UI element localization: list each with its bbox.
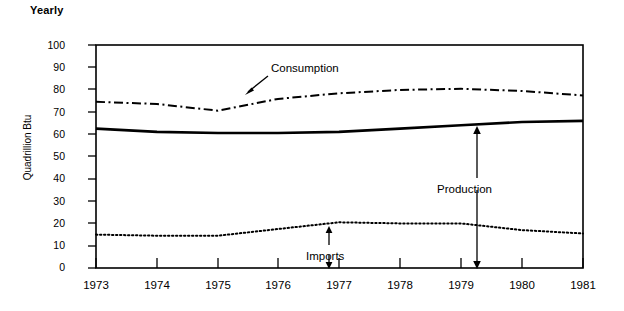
chart-figure: Yearly Quadrillion Btu 100 90 80 70 60 5… (0, 0, 624, 311)
chart-plot-svg (0, 0, 624, 311)
series-line-imports (96, 222, 583, 235)
production-span-arrow (473, 126, 481, 269)
plot-frame (96, 45, 583, 268)
imports-span-arrow (326, 226, 333, 269)
series-line-consumption (96, 89, 583, 111)
y-tick-marks (88, 45, 96, 268)
x-tick-marks (96, 258, 583, 268)
consumption-arrow (245, 76, 268, 95)
series-line-production (96, 121, 583, 133)
